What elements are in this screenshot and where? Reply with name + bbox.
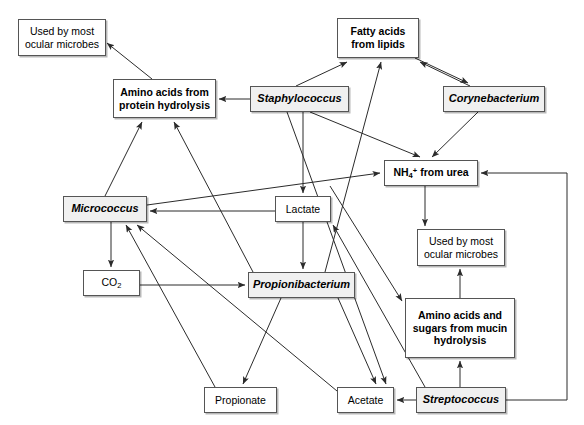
edge-propionate-to-micrococcus	[126, 225, 215, 387]
node-label: NH4+ from urea	[393, 166, 468, 180]
node-corynebacterium[interactable]: Corynebacterium	[443, 86, 545, 112]
edge-coryne-to-nh4	[432, 112, 478, 157]
node-propionibacterium[interactable]: Propionibacterium	[248, 272, 355, 298]
node-micrococcus[interactable]: Micrococcus	[63, 196, 147, 222]
node-co2[interactable]: CO2	[83, 270, 140, 296]
node-label: Staphylococcus	[257, 92, 341, 105]
node-acetate[interactable]: Acetate	[337, 387, 394, 413]
node-label: Micrococcus	[71, 202, 138, 215]
edge-acetate-to-micrococcus	[137, 225, 337, 391]
edge-staph-to-acetate	[287, 112, 386, 384]
edge-micrococcus-to-nh4	[147, 173, 380, 205]
node-label-line2: ocular microbes	[424, 248, 498, 261]
node-streptococcus[interactable]: Streptococcus	[416, 387, 506, 413]
node-nh4-from-urea[interactable]: NH4+ from urea	[384, 160, 478, 186]
edge-amino-protein-to-used-left	[107, 43, 152, 79]
node-label: Lactate	[286, 203, 320, 216]
edge-fatty-acids-to-coryne	[415, 58, 468, 83]
node-fatty-acids-from-lipids[interactable]: Fatty acids from lipids	[337, 18, 419, 58]
node-label: Acetate	[348, 394, 384, 407]
edge-streptococcus-to-nh4	[481, 173, 567, 400]
edge-propionibacterium-to-amino-protein	[174, 122, 253, 272]
node-label: Corynebacterium	[449, 92, 539, 105]
node-amino-acids-and-sugars-from-mucin-hydrolysis[interactable]: Amino acids and sugars from mucin hydrol…	[405, 298, 515, 358]
node-staphylococcus[interactable]: Staphylococcus	[250, 86, 349, 112]
edge-staph-to-fatty-acids	[296, 62, 347, 86]
node-label-line1: Fatty acids	[351, 25, 406, 38]
node-used-by-most-ocular-microbes-right[interactable]: Used by most ocular microbes	[417, 229, 505, 266]
node-label-line1: Amino acids from	[119, 86, 210, 99]
edge-staph-to-nh4	[310, 112, 420, 157]
node-label-line2: from lipids	[351, 38, 406, 51]
node-label: CO2	[102, 276, 122, 290]
node-label-line1: Used by most	[25, 25, 99, 38]
metabolic-interaction-diagram: Used by most ocular microbes Amino acids…	[0, 0, 584, 425]
node-label-line2: ocular microbes	[25, 38, 99, 51]
node-used-by-most-ocular-microbes-left[interactable]: Used by most ocular microbes	[18, 19, 106, 56]
node-label: Propionibacterium	[253, 278, 350, 291]
node-propionate[interactable]: Propionate	[204, 387, 277, 413]
node-lactate[interactable]: Lactate	[275, 196, 331, 222]
node-label-line2: sugars from mucin	[413, 322, 508, 335]
node-label-line1: Amino acids and	[413, 309, 508, 322]
node-label-line1: Used by most	[424, 235, 498, 248]
edge-propionibacterium-to-propionate	[243, 298, 281, 384]
edge-coryne-to-fatty-acids	[420, 62, 470, 86]
node-label: Streptococcus	[423, 393, 499, 406]
node-amino-acids-from-protein-hydrolysis[interactable]: Amino acids from protein hydrolysis	[113, 79, 216, 118]
node-label-line2: protein hydrolysis	[119, 99, 210, 112]
node-label-line3: hydrolysis	[413, 334, 508, 347]
edge-micrococcus-to-amino-protein	[105, 122, 142, 196]
node-label: Propionate	[215, 394, 266, 407]
